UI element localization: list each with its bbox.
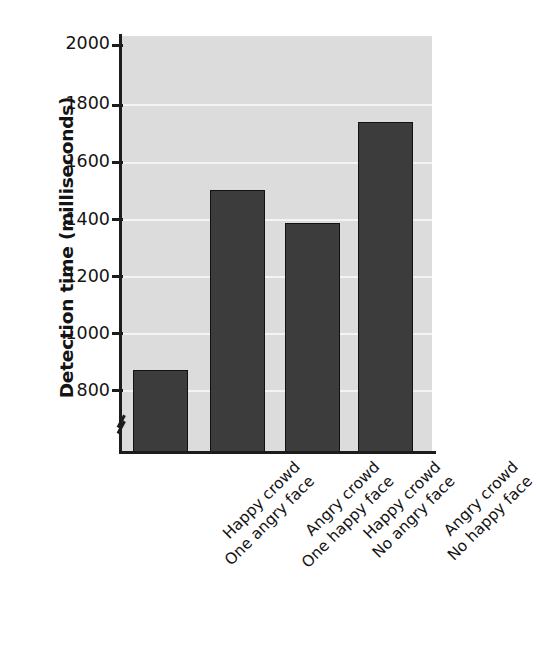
y-tick-label: 2000 — [48, 35, 110, 53]
gridline — [121, 104, 432, 106]
y-tick-label: 1800 — [48, 95, 110, 113]
y-tick-label: 800 — [48, 382, 110, 400]
axis-break-icon — [112, 414, 130, 434]
y-tick-mark — [112, 44, 123, 47]
y-tick-mark — [112, 218, 123, 221]
y-axis-tick-labels: 2000 1800 1600 1400 1200 1000 800 — [44, 0, 110, 460]
y-tick-mark — [112, 332, 123, 335]
bar — [133, 370, 188, 452]
y-tick-mark — [112, 104, 123, 107]
bar — [285, 223, 340, 452]
bar — [358, 122, 413, 452]
y-tick-label: 1200 — [48, 268, 110, 286]
bar — [210, 190, 265, 452]
y-tick-mark — [112, 161, 123, 164]
y-tick-label: 1000 — [48, 325, 110, 343]
y-tick-label: 1600 — [48, 153, 110, 171]
y-tick-mark — [112, 389, 123, 392]
plot-area — [121, 36, 432, 452]
x-axis-tick-labels: Happy crowd One angry face Angry crowd O… — [0, 452, 449, 656]
y-tick-mark — [112, 275, 123, 278]
y-tick-label: 1400 — [48, 211, 110, 229]
